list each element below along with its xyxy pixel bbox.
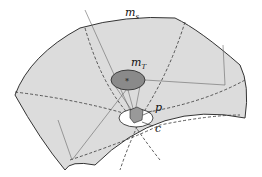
svg-text:*: *	[125, 77, 129, 86]
label-c: c	[155, 122, 161, 135]
label-ms: ms	[125, 6, 139, 21]
label-mt: mT	[131, 56, 146, 71]
curved-surface	[15, 17, 247, 170]
label-p: p	[155, 101, 162, 114]
manifold-diagram: *	[0, 0, 262, 177]
cube-point	[130, 107, 143, 123]
